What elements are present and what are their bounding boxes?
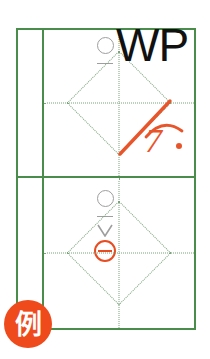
model-character: WP [116,22,188,68]
worksheet-canvas: WP 7 例 [0,0,210,359]
example-badge: 例 [4,300,52,348]
writing-cell-bottom[interactable] [44,178,194,328]
score-numeral: 7 [145,124,162,158]
guide-diamond-dotted-icon-2 [67,201,172,306]
score-dot-icon [176,143,182,149]
